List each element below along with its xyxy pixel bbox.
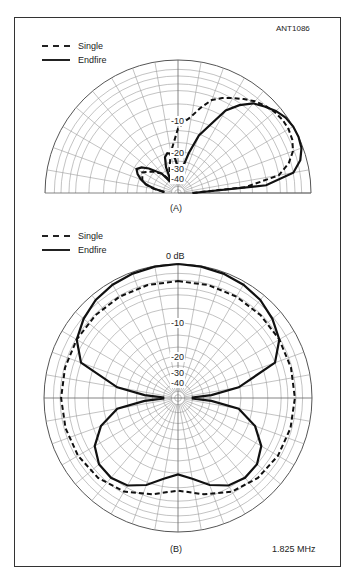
tick-label: -20 (171, 352, 184, 362)
tick-label: -10 (171, 116, 184, 126)
tick-label: -40 (171, 174, 184, 184)
polar-plots: -10 -20 -30 -40 0 dB -10 -20 -30 -40 (0, 0, 349, 575)
tick-label-0db: 0 dB (166, 251, 185, 261)
tick-label: -10 (171, 318, 184, 328)
pattern-endfire-a (137, 103, 302, 193)
panel-caption-a: (A) (170, 203, 182, 213)
tick-label: -40 (171, 378, 184, 388)
tick-label: -30 (171, 164, 184, 174)
tick-label: -20 (171, 148, 184, 158)
polar-grid-b (44, 264, 312, 532)
tick-labels-a: -10 -20 -30 -40 (170, 116, 185, 184)
tick-label: -30 (171, 368, 184, 378)
panel-caption-b: (B) (170, 544, 182, 554)
frequency-label: 1.825 MHz (272, 544, 316, 554)
